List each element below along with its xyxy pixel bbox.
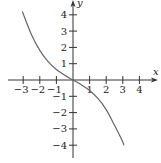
chart: −3−2−112344321−1−2−3−4 x y: [0, 0, 161, 163]
y-tick-label: −4: [52, 140, 67, 151]
x-axis-label: x: [153, 66, 159, 77]
x-tick-label: 1: [86, 84, 92, 95]
x-tick-label: 2: [103, 84, 109, 95]
y-tick-label: 3: [61, 26, 67, 37]
axes: [8, 0, 158, 158]
x-axis-arrow-icon: [151, 78, 158, 83]
x-tick-label: −2: [30, 84, 45, 95]
x-tick-label: 3: [120, 84, 126, 95]
y-tick-label: −2: [52, 107, 67, 118]
y-tick-label: 4: [61, 9, 67, 20]
x-tick-label: 4: [136, 84, 142, 95]
y-axis-label: y: [76, 0, 83, 8]
y-tick-label: −3: [52, 123, 67, 134]
y-tick-label: 1: [61, 58, 67, 69]
x-tick-label: −3: [14, 84, 29, 95]
y-tick-label: 2: [61, 42, 67, 53]
y-tick-label: −1: [52, 91, 67, 102]
y-axis-arrow-icon: [71, 0, 76, 7]
